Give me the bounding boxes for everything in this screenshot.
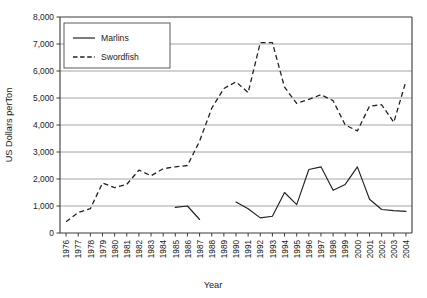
- x-axis-tick-label: 1986: [184, 240, 193, 259]
- y-axis-tick-label: 6,000: [33, 66, 54, 76]
- x-axis-tick-label: 1988: [208, 240, 217, 259]
- y-axis-tick-label: 7,000: [33, 39, 54, 49]
- x-axis-tick-label: 1990: [232, 240, 241, 259]
- x-axis-tick-label: 2000: [354, 240, 363, 259]
- series-line-marlins: [236, 167, 406, 218]
- series-line-swordfish: [66, 43, 406, 222]
- x-axis-tick-label: 1979: [99, 240, 108, 259]
- y-axis-labels-group: 01,0002,0003,0004,0005,0006,0007,0008,00…: [33, 12, 54, 238]
- x-axis-tick-label: 1985: [172, 240, 181, 259]
- data-series-group: [66, 43, 406, 222]
- y-axis-tick-label: 8,000: [33, 12, 54, 22]
- x-axis-tick-label: 1989: [220, 240, 229, 259]
- x-axis-tick-label: 1977: [74, 240, 83, 259]
- x-axis-tick-label: 1984: [159, 240, 168, 259]
- x-axis-tick-label: 1997: [317, 240, 326, 259]
- y-axis-tick-label: 5,000: [33, 93, 54, 103]
- legend-label-swordfish: Swordfish: [101, 52, 139, 62]
- y-axis-tick-label: 4,000: [33, 120, 54, 130]
- y-axis-tick-label: 3,000: [33, 147, 54, 157]
- x-axis-tick-label: 1998: [329, 240, 338, 259]
- x-axis-labels-group: 1976197719781979198019811982198319841985…: [62, 240, 411, 259]
- x-axis-tick-label: 1982: [135, 240, 144, 259]
- legend-label-marlins: Marlins: [101, 33, 129, 43]
- y-axis-tick-label: 0: [49, 228, 54, 238]
- x-axis-tick-label: 1983: [147, 240, 156, 259]
- x-axis-tick-label: 2002: [378, 240, 387, 259]
- x-axis-tick-label: 1995: [293, 240, 302, 259]
- x-axis-tick-label: 1992: [256, 240, 265, 259]
- chart-container: 01,0002,0003,0004,0005,0006,0007,0008,00…: [0, 0, 427, 298]
- chart-legend: MarlinsSwordfish: [64, 23, 170, 68]
- x-axis-tick-label: 2004: [402, 240, 411, 259]
- x-axis-title: Year: [204, 280, 223, 290]
- x-axis-tick-label: 1993: [269, 240, 278, 259]
- x-axis-tick-label: 2001: [366, 240, 375, 259]
- x-axis-tick-label: 2003: [390, 240, 399, 259]
- x-axis-tick-label: 1994: [281, 240, 290, 259]
- x-axis-tick-label: 1978: [87, 240, 96, 259]
- x-axis-tick-label: 1976: [62, 240, 71, 259]
- x-axis-tick-label: 1996: [305, 240, 314, 259]
- y-axis-title: US Dollars perTon: [4, 88, 14, 163]
- x-axis-tick-label: 1981: [123, 240, 132, 259]
- fish-price-line-chart: 01,0002,0003,0004,0005,0006,0007,0008,00…: [0, 0, 427, 298]
- x-axis-tick-label: 1999: [341, 240, 350, 259]
- series-line-marlins: [175, 206, 199, 220]
- y-axis-tick-label: 1,000: [33, 201, 54, 211]
- x-axis-tick-label: 1991: [244, 240, 253, 259]
- x-axis-tick-label: 1987: [196, 240, 205, 259]
- y-axis-tick-label: 2,000: [33, 174, 54, 184]
- x-axis-tick-label: 1980: [111, 240, 120, 259]
